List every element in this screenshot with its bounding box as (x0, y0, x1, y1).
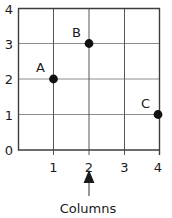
data-point-c-label: C (141, 96, 150, 111)
x-tick-label-3: 3 (120, 160, 128, 175)
columns-annotation-label: Columns (60, 201, 117, 216)
data-point-b-label: B (72, 25, 81, 40)
y-tick-label-4: 4 (5, 2, 13, 17)
x-tick-label-1: 1 (49, 160, 57, 175)
data-point-b-marker[interactable] (85, 39, 94, 48)
y-tick-label-2: 2 (5, 72, 13, 87)
x-tick-label-4: 4 (154, 160, 162, 175)
y-tick-label-3: 3 (5, 37, 13, 52)
x-axis-tick-labels: 1 2 3 4 (49, 160, 162, 175)
data-point-a-marker[interactable] (49, 75, 58, 84)
y-axis-tick-labels: 4 3 2 1 0 (5, 2, 13, 159)
y-tick-label-1: 1 (5, 108, 13, 123)
scatter-plot-figure: 4 3 2 1 0 1 2 3 4 A B C (0, 0, 172, 218)
columns-annotation: Columns (60, 170, 117, 216)
data-point-c-marker[interactable] (154, 110, 163, 119)
y-tick-label-0: 0 (5, 143, 13, 158)
data-point-a-label: A (36, 60, 45, 75)
plot-canvas: 4 3 2 1 0 1 2 3 4 A B C (0, 0, 172, 218)
